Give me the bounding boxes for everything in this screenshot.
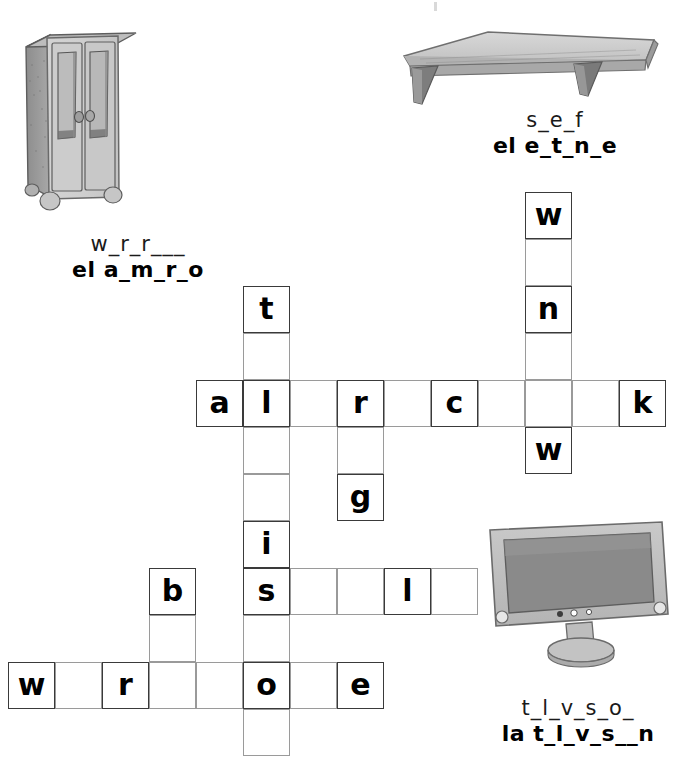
crossword-cell-letter: l <box>261 388 271 418</box>
crossword-cell-letter: l <box>402 576 412 606</box>
crossword-cell-letter: n <box>538 294 559 324</box>
crossword-cell-filled[interactable]: l <box>243 380 290 427</box>
crossword-cell-empty[interactable] <box>290 380 337 427</box>
clue-television-english: t_l_v_s_o_ <box>466 696 690 720</box>
crossword-cell-empty[interactable] <box>55 662 102 709</box>
crossword-cell-letter: w <box>18 670 46 700</box>
crossword-cell-empty[interactable] <box>243 615 290 662</box>
crossword-cell-letter: c <box>446 388 464 418</box>
crossword-cell-filled[interactable]: i <box>243 521 290 568</box>
crossword-cell-filled[interactable]: b <box>149 568 196 615</box>
crossword-cell-empty[interactable] <box>525 380 572 427</box>
crossword-cell-empty[interactable] <box>431 568 478 615</box>
crossword-cell-filled[interactable]: l <box>384 568 431 615</box>
crossword-cell-letter: k <box>633 388 653 418</box>
crossword-cell-empty[interactable] <box>243 709 290 756</box>
crossword-cell-letter: w <box>535 435 563 465</box>
television-illustration <box>484 518 674 668</box>
crossword-cell-filled[interactable]: s <box>243 568 290 615</box>
clue-television-spanish: la t_l_v_s__n <box>466 721 690 746</box>
crossword-cell-filled[interactable]: c <box>431 380 478 427</box>
crossword-cell-filled[interactable]: a <box>196 380 243 427</box>
crossword-cell-letter: g <box>350 482 371 512</box>
wardrobe-illustration <box>18 25 193 215</box>
crossword-cell-filled[interactable]: w <box>525 427 572 474</box>
crossword-cell-filled[interactable]: r <box>102 662 149 709</box>
crossword-cell-filled[interactable]: w <box>8 662 55 709</box>
crossword-cell-letter: e <box>350 670 370 700</box>
crossword-cell-empty[interactable] <box>290 568 337 615</box>
clue-shelf: s_e_f el e_t_n_e <box>430 108 680 158</box>
crossword-cell-filled[interactable]: r <box>337 380 384 427</box>
crossword-cell-empty[interactable] <box>337 568 384 615</box>
crossword-cell-empty[interactable] <box>384 380 431 427</box>
clue-wardrobe-spanish: el a_m_r_o <box>28 257 248 282</box>
shelf-illustration <box>396 22 666 112</box>
crossword-cell-letter: b <box>162 576 183 606</box>
crossword-cell-filled[interactable]: g <box>337 474 384 521</box>
crossword-cell-empty[interactable] <box>196 662 243 709</box>
crossword-cell-empty[interactable] <box>572 380 619 427</box>
crossword-cell-filled[interactable]: n <box>525 286 572 333</box>
crossword-cell-letter: w <box>535 200 563 230</box>
crossword-cell-letter: r <box>118 670 133 700</box>
clue-wardrobe-english: w_r_r___ <box>28 232 248 256</box>
crossword-cell-filled[interactable]: w <box>525 192 572 239</box>
crossword-cell-empty[interactable] <box>149 662 196 709</box>
crossword-cell-filled[interactable]: e <box>337 662 384 709</box>
crossword-cell-empty[interactable] <box>149 615 196 662</box>
crossword-cell-empty[interactable] <box>243 427 290 474</box>
crossword-cell-letter: o <box>256 670 277 700</box>
worksheet-page: w_r_r___ el a_m_r_o <box>0 0 690 773</box>
clue-shelf-english: s_e_f <box>430 108 680 132</box>
crossword-cell-empty[interactable] <box>243 474 290 521</box>
clue-shelf-spanish: el e_t_n_e <box>430 133 680 158</box>
crossword-cell-empty[interactable] <box>525 239 572 286</box>
crossword-cell-letter: i <box>261 529 271 559</box>
crossword-cell-empty[interactable] <box>290 662 337 709</box>
crossword-cell-letter: s <box>258 576 276 606</box>
clue-wardrobe: w_r_r___ el a_m_r_o <box>28 232 248 282</box>
crossword-cell-filled[interactable]: k <box>619 380 666 427</box>
scan-artifact <box>434 2 437 11</box>
crossword-cell-filled[interactable]: t <box>243 286 290 333</box>
crossword-cell-letter: a <box>209 388 229 418</box>
clue-television: t_l_v_s_o_ la t_l_v_s__n <box>466 696 690 746</box>
crossword-cell-empty[interactable] <box>478 380 525 427</box>
crossword-cell-letter: t <box>259 294 273 324</box>
crossword-cell-empty[interactable] <box>243 333 290 380</box>
crossword-cell-filled[interactable]: o <box>243 662 290 709</box>
crossword-cell-empty[interactable] <box>337 427 384 474</box>
crossword-cell-empty[interactable] <box>525 333 572 380</box>
crossword-cell-letter: r <box>353 388 368 418</box>
